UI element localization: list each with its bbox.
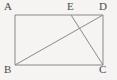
- vertex-label-d: D: [99, 1, 107, 12]
- vertex-label-b: B: [4, 64, 11, 75]
- vertex-label-e: E: [67, 1, 74, 12]
- vertex-label-c: C: [99, 64, 106, 75]
- segment-EC: [71, 15, 103, 65]
- vertex-label-a: A: [4, 1, 12, 12]
- geometry-figure: A E D B C: [0, 0, 117, 80]
- segment-BD: [15, 15, 103, 65]
